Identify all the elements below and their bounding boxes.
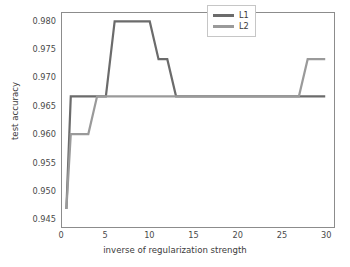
x-tick-label: 0 bbox=[46, 231, 76, 239]
series-line-l2 bbox=[66, 59, 325, 209]
y-tick-label: 0.960 bbox=[8, 130, 56, 138]
y-tick-label: 0.980 bbox=[8, 17, 56, 25]
x-tick-label: 25 bbox=[267, 231, 297, 239]
y-tick-label: 0.950 bbox=[8, 187, 56, 195]
x-tick-label: 20 bbox=[223, 231, 253, 239]
legend-label-l1: L1 bbox=[239, 11, 249, 19]
legend-item-l1[interactable]: L1 bbox=[213, 10, 249, 21]
series-line-l1 bbox=[66, 21, 325, 209]
x-tick-label: 30 bbox=[311, 231, 341, 239]
y-tick-label: 0.970 bbox=[8, 73, 56, 81]
x-tick-label: 10 bbox=[134, 231, 164, 239]
x-tick-label: 5 bbox=[90, 231, 120, 239]
y-tick-label: 0.955 bbox=[8, 159, 56, 167]
plot-area bbox=[61, 12, 335, 228]
x-tick-label: 15 bbox=[179, 231, 209, 239]
x-axis-label: inverse of regularization strength bbox=[0, 245, 350, 255]
series-canvas bbox=[62, 13, 334, 227]
legend-swatch-l1 bbox=[213, 14, 234, 17]
legend-swatch-l2 bbox=[213, 25, 234, 28]
legend[interactable]: L1 L2 bbox=[207, 5, 256, 37]
legend-label-l2: L2 bbox=[239, 22, 249, 30]
legend-item-l2[interactable]: L2 bbox=[213, 21, 249, 32]
y-tick-label: 0.975 bbox=[8, 45, 56, 53]
chart-figure: test accuracy 0.9450.9500.9550.9600.9650… bbox=[0, 0, 350, 267]
y-tick-label: 0.965 bbox=[8, 102, 56, 110]
y-tick-label: 0.945 bbox=[8, 215, 56, 223]
